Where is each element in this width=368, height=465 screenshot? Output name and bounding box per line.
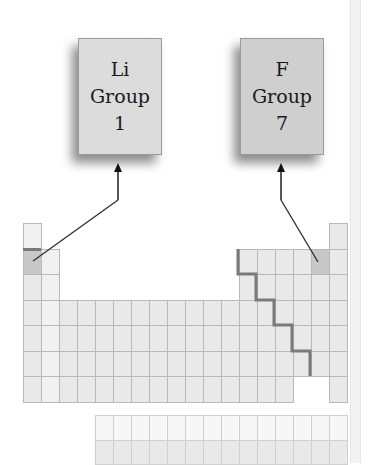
arrow-to-f (277, 163, 318, 262)
metal-nonmetal-staircase-line (238, 249, 310, 376)
arrow-to-li (33, 163, 122, 261)
